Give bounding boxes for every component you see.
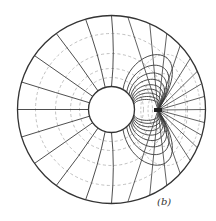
radial-field-line <box>22 116 90 137</box>
radial-field-line <box>112 16 114 87</box>
figure-panel-label: (b) <box>157 196 171 207</box>
inner-cylinder-circle <box>89 87 135 133</box>
dipole-source-marker <box>154 108 162 112</box>
dipole-cylinder-field-diagram <box>0 0 216 221</box>
radial-field-line <box>34 56 92 97</box>
radial-field-line <box>112 133 114 204</box>
dipole-fan-line <box>158 110 206 111</box>
radial-field-line <box>22 82 90 103</box>
